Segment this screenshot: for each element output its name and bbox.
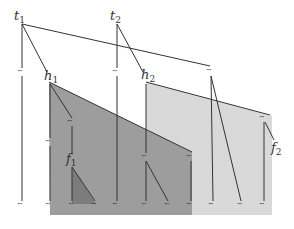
ellipsis-right: ··· (206, 66, 211, 75)
leaf-ellipsis: ··· (186, 200, 191, 209)
ellipsis-h1a: ··· (67, 117, 72, 126)
leaf-ellipsis: ··· (164, 200, 169, 209)
leaf-ellipsis: ··· (68, 200, 73, 209)
leaf-ellipsis: ··· (91, 200, 96, 209)
label-f2: f2 (270, 140, 282, 157)
leaf-ellipsis: ··· (208, 200, 213, 209)
leaf-ellipsis: ··· (237, 200, 242, 209)
leaf-ellipsis: ··· (45, 200, 50, 209)
diagram-canvas: t1 t2 h1 h2 f1 f2 ··· ··· ··· ··· ··· ··… (0, 0, 294, 229)
ellipsis-h2a: ··· (141, 152, 146, 161)
leaf-ellipsis: ··· (112, 200, 117, 209)
leaf-ellipsis: ··· (17, 200, 22, 209)
leaf-ellipsis: ··· (141, 200, 146, 209)
leaf-ellipsis: ··· (259, 200, 264, 209)
ellipsis-h1c: ··· (186, 152, 191, 161)
label-t1: t1 (14, 8, 25, 25)
ellipsis-t1: ··· (17, 67, 22, 76)
ellipsis-t2: ··· (112, 67, 117, 76)
label-h2: h2 (141, 67, 155, 84)
ellipsis-h1b: ··· (45, 137, 50, 146)
ellipsis-f2: ··· (259, 113, 264, 122)
label-t2: t2 (110, 8, 121, 25)
label-h1: h1 (44, 68, 58, 85)
